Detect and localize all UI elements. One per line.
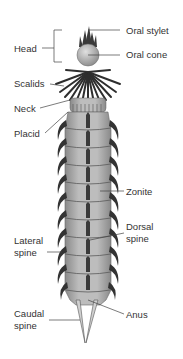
label-oral-stylet: Oral stylet — [126, 25, 169, 36]
caudal-spines — [76, 300, 98, 343]
label-caudal-spine-2: spine — [14, 320, 37, 331]
label-oral-cone: Oral cone — [126, 49, 167, 60]
label-lateral-spine-1: Lateral — [14, 235, 43, 246]
label-caudal-spine-1: Caudal — [14, 308, 44, 319]
label-dorsal-spine-2: spine — [126, 233, 149, 244]
label-anus: Anus — [126, 309, 148, 320]
label-head: Head — [14, 43, 37, 54]
label-neck: Neck — [14, 103, 36, 114]
neck-shape — [70, 98, 106, 112]
label-placid: Placid — [14, 128, 40, 139]
label-dorsal-spine-1: Dorsal — [126, 221, 153, 232]
label-zonite: Zonite — [126, 186, 152, 197]
label-lateral-spine-2: spine — [14, 247, 37, 258]
label-scalids: Scalids — [14, 78, 45, 89]
